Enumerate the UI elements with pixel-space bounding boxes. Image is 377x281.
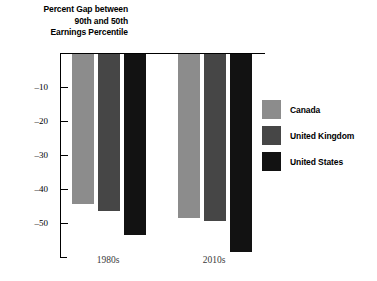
y-tick-label-minus40: –40 bbox=[14, 185, 48, 194]
bar-1980s-canada[interactable] bbox=[72, 54, 94, 204]
chart-title-line-3: Earnings Percentile bbox=[0, 27, 128, 39]
bar-1980s-united-kingdom[interactable] bbox=[98, 54, 120, 211]
legend-swatch-united-kingdom bbox=[262, 126, 281, 145]
legend-swatch-united-states bbox=[262, 152, 281, 171]
y-tick-label-minus50: –50 bbox=[14, 219, 48, 228]
y-tick-minus50 bbox=[61, 223, 68, 224]
y-tick-minus20 bbox=[61, 121, 68, 122]
y-tick-label-minus30: –30 bbox=[14, 151, 48, 160]
legend-label-united-kingdom: United Kingdom bbox=[290, 131, 354, 141]
chart-title-line-2: 90th and 50th bbox=[0, 16, 128, 28]
x-group-label-2010s: 2010s bbox=[184, 255, 244, 265]
legend-item-united-kingdom[interactable]: United Kingdom bbox=[262, 124, 374, 147]
legend-label-canada: Canada bbox=[290, 105, 320, 115]
legend: Canada United Kingdom United States bbox=[262, 98, 374, 176]
chart-title-line-1: Percent Gap between bbox=[0, 4, 128, 16]
y-axis-foot bbox=[60, 257, 67, 258]
legend-label-united-states: United States bbox=[290, 157, 343, 167]
y-tick-minus10 bbox=[61, 87, 68, 88]
y-tick-minus40 bbox=[61, 189, 68, 190]
bar-2010s-united-states[interactable] bbox=[230, 54, 252, 252]
y-axis-labels: –10 –20 –30 –40 –50 bbox=[14, 53, 48, 258]
y-tick-minus30 bbox=[61, 155, 68, 156]
y-tick-label-minus10: –10 bbox=[14, 83, 48, 92]
plot-area bbox=[60, 53, 265, 258]
legend-item-united-states[interactable]: United States bbox=[262, 150, 374, 173]
bar-2010s-canada[interactable] bbox=[178, 54, 200, 218]
x-group-label-1980s: 1980s bbox=[78, 255, 138, 265]
y-tick-label-minus20: –20 bbox=[14, 117, 48, 126]
legend-swatch-canada bbox=[262, 100, 281, 119]
bar-chart: Percent Gap between 90th and 50th Earnin… bbox=[0, 0, 377, 281]
chart-title: Percent Gap between 90th and 50th Earnin… bbox=[0, 4, 128, 39]
bar-2010s-united-kingdom[interactable] bbox=[204, 54, 226, 221]
legend-item-canada[interactable]: Canada bbox=[262, 98, 374, 121]
bar-1980s-united-states[interactable] bbox=[124, 54, 146, 235]
